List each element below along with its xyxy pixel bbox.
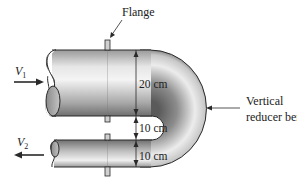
dimension-outlet-diameter: 10 cm xyxy=(139,150,167,162)
svg-text:V1: V1 xyxy=(15,64,26,80)
flange-mid-lower-stub xyxy=(105,134,110,140)
flange-mid-upper-stub xyxy=(105,116,110,122)
flange-label: Flange xyxy=(122,5,155,19)
svg-text:V2: V2 xyxy=(17,135,28,151)
dimension-inlet-diameter: 20 cm xyxy=(139,78,167,90)
flange-leader-arrowhead xyxy=(110,32,115,38)
bend-label-line2: reducer bend xyxy=(246,110,297,124)
inlet-pipe-end xyxy=(46,86,60,116)
flange-bottom-stub xyxy=(105,167,110,176)
reducer-bend-diagram: Flange 20 cm 10 cm 10 cm Vertical reduce… xyxy=(0,0,297,189)
flange-top-stub xyxy=(105,40,110,50)
bend-label-line1: Vertical xyxy=(246,94,284,108)
inlet-flow-arrowhead xyxy=(36,79,44,86)
outlet-velocity: V2 xyxy=(14,135,44,159)
inlet-velocity: V1 xyxy=(14,64,44,86)
outlet-flow-arrowhead xyxy=(14,152,22,159)
outlet-pipe-end xyxy=(51,141,59,157)
dimension-gap: 10 cm xyxy=(139,122,167,134)
